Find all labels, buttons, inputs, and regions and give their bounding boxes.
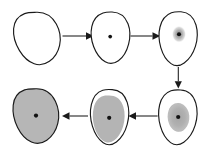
diagram-canvas xyxy=(0,0,210,154)
arrow-stage5-to-stage6 xyxy=(62,112,88,119)
stage-4-cell xyxy=(159,90,197,145)
nucleus-dot xyxy=(177,32,181,36)
arrow-stage2-to-stage3 xyxy=(131,32,161,39)
stage-2-cell xyxy=(91,12,130,63)
cell-progression-diagram xyxy=(0,0,210,154)
nucleus-dot xyxy=(34,114,38,118)
arrow-stage4-to-stage5 xyxy=(128,112,157,119)
stage-1-cell xyxy=(14,12,61,64)
nucleus-dot xyxy=(107,116,111,120)
stage-6-cell xyxy=(13,89,59,143)
cell-membrane-outline xyxy=(14,12,61,64)
nucleus-dot xyxy=(108,35,112,39)
stage-3-cell xyxy=(159,12,197,66)
nucleus-dot xyxy=(176,115,180,119)
stage-5-cell xyxy=(90,89,128,144)
arrow-stage3-to-stage4 xyxy=(175,67,182,89)
arrow-stage1-to-stage2 xyxy=(63,32,94,39)
